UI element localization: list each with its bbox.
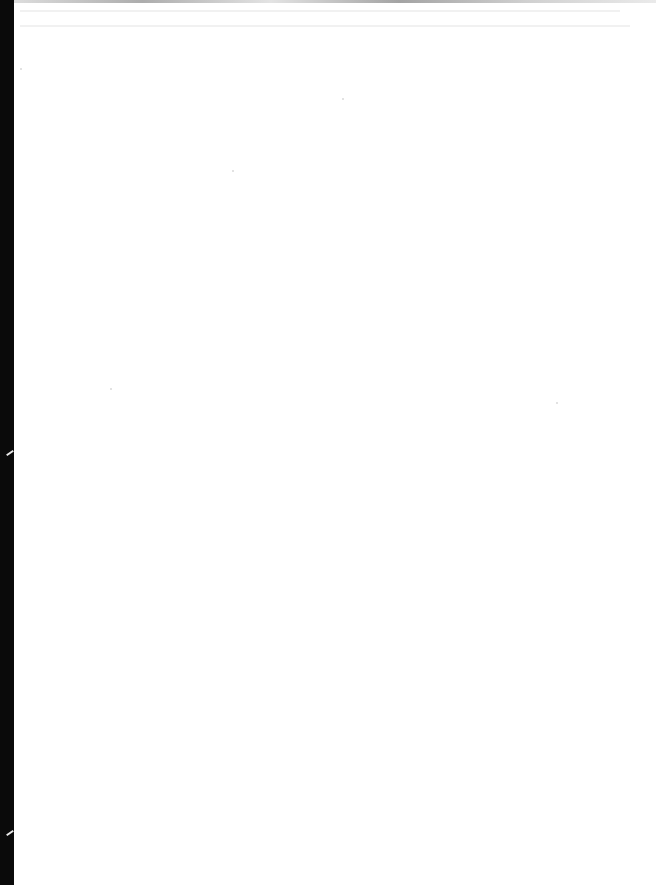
scan-speck — [556, 402, 558, 404]
scan-binding-edge — [0, 0, 14, 885]
scan-speck — [20, 68, 22, 70]
scan-top-edge — [14, 0, 656, 3]
blank-page — [14, 3, 656, 885]
scan-speck — [110, 388, 112, 390]
scan-speck — [342, 98, 344, 100]
scan-speck — [232, 170, 234, 172]
show-through-line — [20, 10, 620, 12]
show-through-line — [20, 25, 630, 27]
